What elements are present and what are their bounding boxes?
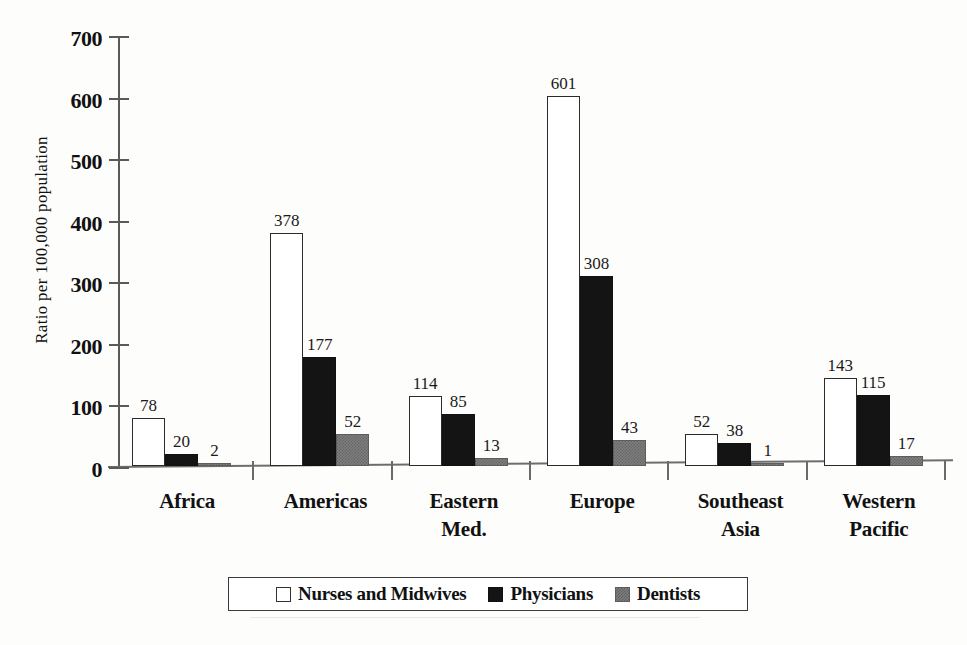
bar-dent (198, 463, 231, 466)
category-label: Europe (533, 487, 671, 515)
legend-item[interactable]: Physicians (488, 583, 593, 605)
category-label-line: Med. (395, 515, 533, 543)
category-label-line: Western (810, 487, 948, 515)
bar-value-label: 1 (737, 441, 798, 461)
footer-rule (250, 617, 700, 618)
legend-label: Physicians (510, 583, 593, 605)
category-label: SoutheastAsia (671, 487, 809, 543)
bar-value-label: 378 (256, 211, 317, 231)
group-separator-tick (944, 461, 946, 480)
bar-phys (580, 276, 613, 466)
bar-value-label: 43 (599, 418, 660, 438)
legend-swatch-nurses (276, 587, 291, 602)
y-tick-label: 700 (34, 26, 102, 52)
bar-nurses (547, 96, 580, 466)
category-label-line: Americas (256, 487, 394, 515)
chart-figure: Ratio per 100,000 population 01002003004… (0, 0, 967, 645)
bar-value-label: 601 (533, 74, 594, 94)
bar-group: 52381 (685, 35, 784, 466)
group-separator-tick (529, 461, 531, 480)
y-tick-label: 200 (34, 334, 102, 360)
category-label-line: Eastern (395, 487, 533, 515)
y-tick-label: 400 (34, 211, 102, 237)
bar-dent (613, 440, 646, 466)
y-tick (109, 344, 129, 346)
y-tick (109, 467, 129, 469)
bar-value-label: 38 (704, 421, 765, 441)
bar-value-label: 85 (428, 392, 489, 412)
group-separator-tick (667, 461, 669, 480)
legend-item[interactable]: Nurses and Midwives (276, 583, 466, 605)
category-label: Africa (118, 487, 256, 515)
bar-group: 78202 (132, 35, 231, 466)
category-label-line: Africa (118, 487, 256, 515)
y-tick (109, 221, 129, 223)
legend-item[interactable]: Dentists (615, 583, 700, 605)
y-tick-label: 600 (34, 88, 102, 114)
bar-group: 14311517 (824, 35, 923, 466)
category-label-line: Europe (533, 487, 671, 515)
category-label-line: Asia (671, 515, 809, 543)
bar-group: 1148513 (409, 35, 508, 466)
bar-value-label: 13 (461, 436, 522, 456)
bar-dent (751, 463, 784, 466)
legend-label: Dentists (637, 583, 700, 605)
y-tick (109, 159, 129, 161)
bar-value-label: 52 (322, 412, 383, 432)
category-label-line: Southeast (671, 487, 809, 515)
chart-legend: Nurses and MidwivesPhysiciansDentists (228, 577, 748, 611)
y-tick (109, 282, 129, 284)
bar-dent (475, 458, 508, 466)
category-labels: AfricaAmericasEasternMed.EuropeSoutheast… (118, 487, 948, 557)
y-tick (109, 98, 129, 100)
bar-value-label: 2 (184, 441, 245, 461)
category-label: EasternMed. (395, 487, 533, 543)
bar-group: 37817752 (270, 35, 369, 466)
category-label: WesternPacific (810, 487, 948, 543)
category-label: Americas (256, 487, 394, 515)
group-separator-tick (252, 461, 254, 480)
category-label-line: Pacific (810, 515, 948, 543)
bar-value-label: 17 (876, 434, 937, 454)
legend-label: Nurses and Midwives (298, 583, 466, 605)
bar-dent (890, 456, 923, 466)
bar-dent (336, 434, 369, 466)
group-separator-tick (391, 461, 393, 480)
bar-value-label: 115 (843, 373, 904, 393)
bar-value-label: 78 (118, 396, 179, 416)
legend-swatch-phys (488, 587, 503, 602)
y-tick-label: 0 (34, 457, 102, 483)
plot-area: 0100200300400500600700 78202378177521148… (118, 37, 948, 468)
group-separator-tick (806, 461, 808, 480)
bar-group: 60130843 (547, 35, 646, 466)
y-tick (109, 36, 129, 38)
y-tick-label: 100 (34, 395, 102, 421)
bar-value-label: 308 (566, 254, 627, 274)
y-tick-label: 300 (34, 272, 102, 298)
y-tick-label: 500 (34, 149, 102, 175)
bar-phys (857, 395, 890, 466)
bar-value-label: 177 (289, 335, 350, 355)
legend-swatch-dent (615, 587, 630, 602)
